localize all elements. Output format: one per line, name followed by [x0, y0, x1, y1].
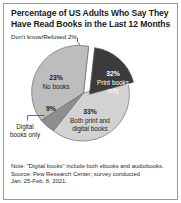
label-both-pct: 33% [83, 108, 97, 115]
pie-chart-svg: 23% No books 32% Print books only 33% Bo… [3, 38, 178, 156]
pie-chart-card: Percentage of US Adults Who Say They Hav… [0, 0, 181, 203]
label-digital-pct: 9% [46, 105, 56, 112]
chart-title-line-1: Percentage of US Adults Who Say They [11, 8, 171, 19]
footnote-date: Jan. 25-Feb. 8, 2021. [11, 178, 171, 186]
chart-title: Percentage of US Adults Who Say They Hav… [11, 8, 171, 30]
label-no-books-text: No books [43, 83, 70, 90]
label-both-line-2: digital books [72, 125, 108, 133]
label-print-books-pct: 32% [106, 70, 120, 77]
footnote-source: Source: Pew Research Center; survey cond… [11, 171, 171, 179]
label-print-books-line-2: only [107, 87, 120, 95]
footnotes: Note: "Digital books" include both ebook… [11, 163, 171, 186]
label-no-books-pct: 23% [49, 74, 63, 81]
label-digital-line-1: Digital [16, 123, 34, 131]
label-digital-line-2: books only [10, 131, 41, 139]
footnote-note: Note: "Digital books" include both ebook… [11, 163, 171, 171]
chart-title-line-2: Have Read Books in the Last 12 Months [11, 19, 171, 30]
label-both-line-1: Both print and [70, 117, 110, 125]
label-print-books-line-1: Print books [97, 79, 129, 86]
pie-chart-area: 23% No books 32% Print books only 33% Bo… [3, 38, 178, 156]
